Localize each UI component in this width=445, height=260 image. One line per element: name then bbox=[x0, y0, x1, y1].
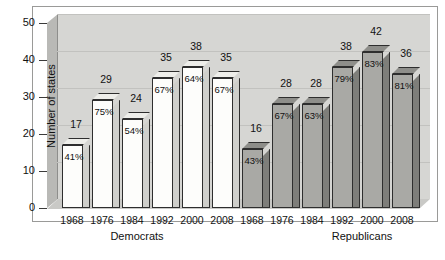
x-label-rep-2008: 2008 bbox=[382, 214, 422, 226]
bar-percent-label: 54% bbox=[123, 126, 145, 136]
bar-front bbox=[332, 67, 353, 208]
y-tick-10 bbox=[39, 171, 47, 172]
y-tick-label-20: 20 bbox=[5, 128, 35, 139]
bar-percent-label: 64% bbox=[183, 74, 205, 84]
bar-republicans-2000: 42 83% bbox=[362, 14, 383, 208]
bar-percent-label: 63% bbox=[303, 111, 325, 121]
bar-percent-label: 67% bbox=[273, 111, 295, 121]
bar-value-label: 35 bbox=[146, 52, 186, 63]
group-label-democrats: Democrats bbox=[67, 230, 207, 242]
bar-value-label: 17 bbox=[56, 119, 96, 130]
bar-democrats-1984: 24 54% bbox=[122, 14, 143, 208]
bar-front bbox=[212, 78, 233, 208]
bar-democrats-2008: 35 67% bbox=[212, 14, 233, 208]
bar-value-label: 38 bbox=[176, 41, 216, 52]
bar-side bbox=[383, 52, 390, 208]
bar-percent-label: 43% bbox=[243, 156, 265, 166]
bar-value-label: 28 bbox=[296, 78, 336, 89]
y-tick-label-0: 0 bbox=[5, 202, 35, 213]
bar-value-label: 24 bbox=[116, 93, 156, 104]
bar-percent-label: 83% bbox=[363, 59, 385, 69]
bar-democrats-2000: 38 64% bbox=[182, 14, 203, 208]
bar-democrats-1968: 17 41% bbox=[62, 14, 83, 208]
bar-side bbox=[413, 74, 420, 208]
bar-republicans-2008: 36 81% bbox=[392, 14, 413, 208]
y-tick-50 bbox=[39, 23, 47, 24]
y-tick-label-50: 50 bbox=[5, 17, 35, 28]
y-tick-label-40: 40 bbox=[5, 54, 35, 65]
bar-value-label: 29 bbox=[86, 74, 126, 85]
plot-area: 50 40 30 20 10 0 Number of states 17 41%… bbox=[47, 14, 430, 208]
bar-democrats-1992: 35 67% bbox=[152, 14, 173, 208]
bar-value-label: 35 bbox=[206, 52, 246, 63]
y-tick-label-10: 10 bbox=[5, 165, 35, 176]
bar-value-label: 36 bbox=[386, 48, 426, 59]
group-label-republicans: Republicans bbox=[292, 230, 432, 242]
bar-percent-label: 81% bbox=[393, 81, 415, 91]
bar-side bbox=[353, 67, 360, 208]
bar-value-label: 42 bbox=[356, 26, 396, 37]
bar-value-label: 16 bbox=[236, 123, 276, 134]
bar-republicans-1976: 28 67% bbox=[272, 14, 293, 208]
y-tick-label-30: 30 bbox=[5, 91, 35, 102]
bar-republicans-1992: 38 79% bbox=[332, 14, 353, 208]
bar-front bbox=[152, 78, 173, 208]
bar-percent-label: 41% bbox=[63, 152, 85, 162]
bar-percent-label: 67% bbox=[153, 85, 175, 95]
bar-front bbox=[182, 67, 203, 208]
y-axis-title: Number of states bbox=[45, 46, 57, 166]
bar-percent-label: 67% bbox=[213, 85, 235, 95]
bar-percent-label: 79% bbox=[333, 74, 355, 84]
bar-front bbox=[362, 52, 383, 208]
bar-percent-label: 75% bbox=[93, 107, 115, 117]
bar-republicans-1984: 28 63% bbox=[302, 14, 323, 208]
bar-democrats-1976: 29 75% bbox=[92, 14, 113, 208]
bar-front bbox=[392, 74, 413, 208]
bar-side bbox=[173, 78, 180, 208]
bar-side bbox=[203, 67, 210, 208]
bar-value-label: 38 bbox=[326, 41, 366, 52]
bar-side bbox=[233, 78, 240, 208]
chart-screenshot: 50 40 30 20 10 0 Number of states 17 41%… bbox=[0, 0, 445, 260]
y-tick-0 bbox=[39, 208, 47, 209]
bar-republicans-1968: 16 43% bbox=[242, 14, 263, 208]
